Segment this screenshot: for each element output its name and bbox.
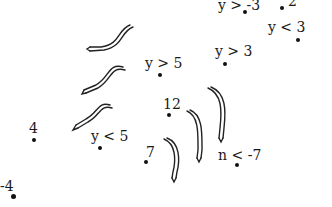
- point-dot: [11, 194, 16, 199]
- point-dot: [235, 163, 239, 167]
- label-2: 2: [288, 0, 297, 8]
- label-neg4: -4: [0, 179, 14, 193]
- point-dot: [32, 138, 36, 142]
- arrow-down-icon: [208, 87, 225, 142]
- label-y-gt-3: y > 3: [215, 44, 252, 58]
- label-y-gt-neg3: y > -3: [218, 0, 260, 12]
- label-n-lt-neg7: n < -7: [218, 148, 261, 162]
- point-dot: [280, 6, 284, 10]
- point-dot: [243, 10, 247, 14]
- arrow-left-down-icon: [73, 104, 112, 130]
- label-12: 12: [163, 97, 181, 111]
- label-7: 7: [146, 145, 155, 159]
- point-dot: [223, 62, 227, 66]
- arrow-down-icon: [187, 110, 202, 162]
- arrow-down-icon: [164, 138, 179, 182]
- label-y-gt-5: y > 5: [145, 56, 182, 70]
- point-dot: [144, 160, 148, 164]
- point-dot: [98, 146, 102, 150]
- arrow-left-down-icon: [82, 66, 125, 94]
- point-dot: [167, 113, 171, 117]
- point-dot: [158, 73, 162, 77]
- label-4: 4: [29, 121, 38, 135]
- arrow-left-down-icon: [87, 25, 133, 51]
- label-y-lt-5: y < 5: [91, 129, 128, 143]
- label-y-lt-3: y < 3: [268, 20, 305, 34]
- point-dot: [296, 38, 300, 42]
